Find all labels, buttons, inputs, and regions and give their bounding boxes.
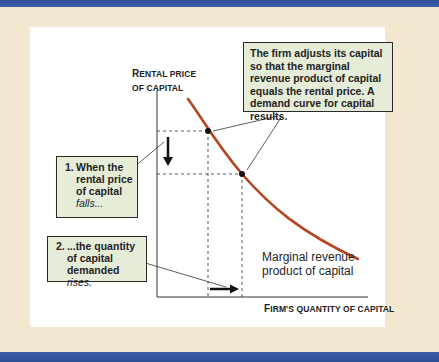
- callout-1-number: 1.: [65, 161, 76, 209]
- callout-1-text: When the rental price of capital: [76, 161, 133, 197]
- x-axis-label: FIRM'S QUANTITY OF CAPITAL: [264, 303, 394, 314]
- leader-top-to-b: [247, 116, 282, 170]
- point-b: [239, 171, 245, 177]
- curve-label-line1: Marginal revenue: [262, 250, 355, 264]
- curve-label: Marginal revenue product of capital: [262, 250, 355, 278]
- x-axis-label-rest: IRM'S QUANTITY OF CAPITAL: [270, 304, 394, 314]
- callout-2-italic: rises.: [67, 276, 92, 288]
- y-axis-label-line2: OF CAPITAL: [132, 83, 183, 93]
- callout-2-number: 2.: [56, 240, 67, 288]
- leader-callout-2: [142, 262, 226, 287]
- curve-label-line2: product of capital: [262, 264, 355, 278]
- callout-1: 1. When the rental price of capital fall…: [56, 156, 138, 218]
- arrow-down-icon: [163, 137, 173, 166]
- callout-1-italic: falls...: [76, 197, 103, 209]
- mrp-curve: [188, 99, 358, 259]
- y-axis-label-rest: ENTAL PRICE: [139, 69, 196, 79]
- bottom-border-bar: [0, 352, 439, 362]
- point-a: [205, 128, 211, 134]
- y-axis-label: RENTAL PRICE OF CAPITAL: [132, 67, 196, 95]
- callout-top-text: The firm adjusts its capital so that the…: [250, 47, 382, 122]
- callout-2: 2. ...the quantity of capital demanded r…: [47, 236, 147, 282]
- callout-2-text: ...the quantity of capital demanded: [67, 240, 135, 276]
- callout-top: The firm adjusts its capital so that the…: [243, 42, 393, 112]
- arrow-right-icon: [210, 285, 239, 294]
